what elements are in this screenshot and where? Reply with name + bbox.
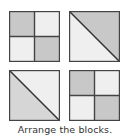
diagonal-block-graphic: [69, 11, 120, 62]
block-diagonal-3[interactable]: [9, 70, 60, 121]
four-square-block-graphic: [9, 11, 60, 62]
four-square-block-graphic: [69, 70, 120, 121]
block-diagonal-2[interactable]: [69, 11, 120, 62]
block-four-square-1[interactable]: [9, 11, 60, 62]
diagonal-block-graphic: [9, 70, 60, 121]
block-four-square-4[interactable]: [69, 70, 120, 121]
instruction-caption: Arrange the blocks.: [0, 124, 130, 135]
